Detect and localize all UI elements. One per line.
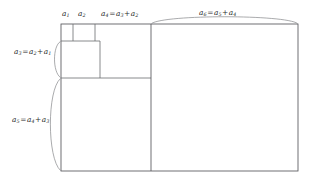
label-a6-plus: + (222, 8, 229, 17)
label-a4-rhs2-sub: 2 (135, 12, 138, 18)
label-a4-plus: + (124, 9, 131, 18)
label-a4-equation: a4=a3+a2 (101, 10, 138, 18)
label-a5-equation: a5=a4+a3 (12, 116, 49, 124)
label-a5-rhs2-sub: 3 (46, 118, 49, 124)
fibonacci-squares-diagram (0, 0, 313, 178)
label-a4-operator: = (109, 9, 116, 18)
brace-a5 (50, 79, 60, 171)
label-a3-rhs2-sub: 1 (48, 50, 51, 56)
label-a1: a1 (62, 10, 70, 18)
label-a3-plus: + (37, 47, 44, 56)
label-a2: a2 (78, 10, 86, 18)
label-a1-sub: 1 (67, 12, 70, 18)
figure-root: a1 a2 a4=a3+a2 a6=a5+a4 a3=a2+a1 a5=a4+a… (0, 0, 313, 178)
brace-a3 (55, 42, 61, 78)
label-a3-equation: a3=a2+a1 (14, 48, 51, 56)
label-a6-equation: a6=a5+a4 (199, 9, 236, 17)
label-a2-sub: 2 (83, 12, 86, 18)
label-a5-plus: + (35, 115, 42, 124)
brace-a6 (152, 17, 298, 24)
label-a6-operator: = (207, 8, 214, 17)
label-a6-rhs2-sub: 4 (233, 11, 236, 17)
label-a5-operator: = (20, 115, 27, 124)
label-a3-operator: = (22, 47, 29, 56)
outer-rectangle (61, 24, 298, 171)
